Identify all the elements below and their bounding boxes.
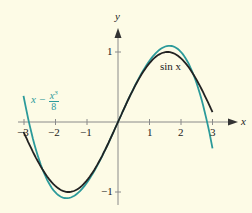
y-axis-arrow-icon xyxy=(115,28,122,38)
x-tick-label: −2 xyxy=(48,126,60,138)
y-axis-label: y xyxy=(115,10,120,22)
x-tick-label: 1 xyxy=(147,126,153,138)
x-tick-label: −3 xyxy=(17,126,29,138)
poly-label: x − x38 xyxy=(31,88,59,112)
x-tick-label: 2 xyxy=(178,126,184,138)
sin-label: sin x xyxy=(160,60,181,72)
x-tick-label: −1 xyxy=(80,126,92,138)
x-axis-label: x xyxy=(241,115,246,127)
x-tick-label: 3 xyxy=(210,126,216,138)
y-tick-label: 1 xyxy=(107,45,113,57)
y-tick-label: −1 xyxy=(101,185,113,197)
x-axis-arrow-icon xyxy=(228,119,238,126)
